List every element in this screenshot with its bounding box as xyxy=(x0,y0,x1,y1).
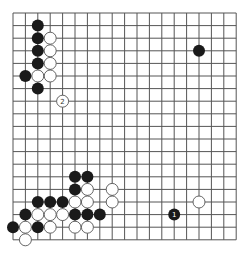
black-stone-disc xyxy=(32,196,44,208)
black-stone xyxy=(32,83,44,95)
move-number-label: 2 xyxy=(60,98,64,106)
black-stone xyxy=(69,209,81,221)
black-stone-disc xyxy=(32,83,44,95)
white-stone xyxy=(44,221,56,233)
white-stone-disc xyxy=(19,234,31,246)
white-stone: 2 xyxy=(57,95,69,107)
white-stone-disc xyxy=(32,209,44,221)
black-stone-disc xyxy=(44,196,56,208)
white-stone-disc xyxy=(44,32,56,44)
black-stone xyxy=(94,209,106,221)
black-stone xyxy=(69,171,81,183)
white-stone xyxy=(81,221,93,233)
black-stone-disc xyxy=(32,32,44,44)
black-stone xyxy=(81,209,93,221)
black-stone xyxy=(32,32,44,44)
black-stone xyxy=(69,183,81,195)
white-stone xyxy=(81,196,93,208)
black-stone-disc xyxy=(81,171,93,183)
go-board[interactable]: 21 xyxy=(0,0,246,254)
black-stone xyxy=(44,196,56,208)
white-stone xyxy=(19,234,31,246)
black-stone-disc xyxy=(32,57,44,69)
black-stone xyxy=(32,45,44,57)
white-stone-disc xyxy=(57,209,69,221)
white-stone xyxy=(32,209,44,221)
black-stone-disc xyxy=(69,209,81,221)
black-stone: 1 xyxy=(168,209,180,221)
black-stone xyxy=(32,57,44,69)
white-stone xyxy=(19,221,31,233)
black-stone-disc xyxy=(193,45,205,57)
white-stone-disc xyxy=(193,196,205,208)
black-stone-disc xyxy=(32,221,44,233)
white-stone xyxy=(44,45,56,57)
white-stone-disc xyxy=(44,209,56,221)
move-number-label: 1 xyxy=(172,211,176,219)
white-stone xyxy=(44,57,56,69)
white-stone-disc xyxy=(69,196,81,208)
black-stone-disc xyxy=(69,183,81,195)
black-stone-disc xyxy=(32,20,44,32)
white-stone-disc xyxy=(106,196,118,208)
white-stone xyxy=(193,196,205,208)
black-stone xyxy=(32,20,44,32)
stones-layer: 21 xyxy=(7,20,205,246)
black-stone xyxy=(19,209,31,221)
white-stone-disc xyxy=(81,221,93,233)
white-stone xyxy=(57,209,69,221)
black-stone xyxy=(81,171,93,183)
white-stone-disc xyxy=(69,221,81,233)
black-stone-disc xyxy=(69,171,81,183)
black-stone xyxy=(193,45,205,57)
black-stone-disc xyxy=(57,196,69,208)
white-stone-disc xyxy=(32,70,44,82)
black-stone-disc xyxy=(81,209,93,221)
black-stone xyxy=(32,221,44,233)
white-stone-disc xyxy=(81,183,93,195)
white-stone-disc xyxy=(44,221,56,233)
white-stone xyxy=(32,70,44,82)
black-stone-disc xyxy=(94,209,106,221)
white-stone xyxy=(106,183,118,195)
white-stone xyxy=(69,221,81,233)
black-stone-disc xyxy=(7,221,19,233)
white-stone-disc xyxy=(106,183,118,195)
black-stone-disc xyxy=(32,45,44,57)
black-stone xyxy=(57,196,69,208)
white-stone xyxy=(106,196,118,208)
white-stone-disc xyxy=(44,57,56,69)
black-stone-disc xyxy=(19,209,31,221)
white-stone-disc xyxy=(44,45,56,57)
black-stone-disc xyxy=(19,70,31,82)
white-stone xyxy=(44,32,56,44)
white-stone-disc xyxy=(81,196,93,208)
white-stone-disc xyxy=(44,70,56,82)
white-stone xyxy=(44,209,56,221)
black-stone xyxy=(7,221,19,233)
white-stone-disc xyxy=(19,221,31,233)
white-stone xyxy=(69,196,81,208)
white-stone xyxy=(81,183,93,195)
white-stone xyxy=(44,70,56,82)
black-stone xyxy=(32,196,44,208)
black-stone xyxy=(19,70,31,82)
